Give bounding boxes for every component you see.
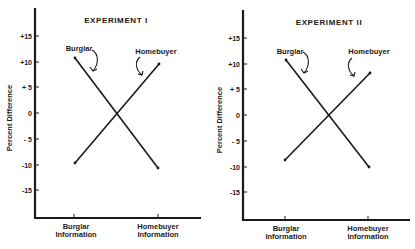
data-point (284, 159, 287, 162)
data-point (74, 57, 77, 60)
chart-experiment-2: EXPERIMENT II Percent Difference +15 +10… (215, 10, 410, 241)
series-line-burglar (286, 60, 369, 167)
y-tick-label: -10 (230, 164, 240, 171)
y-tick-label: +10 (228, 61, 240, 68)
data-point (285, 59, 288, 62)
data-point (368, 166, 371, 169)
chart-title: EXPERIMENT I (84, 16, 148, 25)
curved-arrow-icon (136, 57, 142, 75)
data-point (157, 167, 160, 170)
data-point (369, 72, 372, 75)
data-point (158, 63, 161, 66)
y-tick-label: +10 (20, 59, 32, 66)
y-tick-label: - 5 (24, 136, 32, 143)
chart-experiment-1: EXPERIMENT I Percent Difference +15 +10 … (5, 8, 201, 239)
y-ticks: +15 +10 + 5 0 - 5 -10 -15 (228, 35, 247, 196)
y-tick-label: 0 (28, 110, 32, 117)
chart-title: EXPERIMENT II (296, 18, 362, 27)
y-tick-label: - 5 (232, 138, 240, 145)
series-annotation-burglar: Burglar (277, 47, 304, 56)
y-tick-label: -10 (22, 162, 32, 169)
y-axis-label: Percent Difference (5, 85, 14, 151)
figure: EXPERIMENT I Percent Difference +15 +10 … (0, 0, 415, 249)
y-ticks: +15 +10 + 5 0 - 5 -10 -15 (20, 33, 39, 194)
y-tick-label: + 5 (22, 84, 32, 91)
y-tick-label: +15 (20, 33, 32, 40)
series-line-homebuyer (75, 64, 159, 163)
y-tick-label: +15 (228, 35, 240, 42)
curved-arrow-icon (92, 50, 97, 71)
curved-arrow-icon (303, 52, 308, 73)
x-category-label: Information (265, 232, 307, 241)
y-tick-label: 0 (236, 112, 240, 119)
x-category-label: Information (137, 230, 179, 239)
series-annotation-homebuyer: Homebuyer (135, 47, 176, 56)
y-tick-label: -15 (22, 187, 32, 194)
y-tick-label: -15 (230, 189, 240, 196)
x-category-label: Information (347, 232, 389, 241)
series-annotation-homebuyer: Homebuyer (348, 47, 389, 56)
x-category-label: Information (55, 230, 97, 239)
series-annotation-burglar: Burglar (66, 44, 93, 53)
data-point (74, 162, 77, 165)
y-axis-label: Percent Difference (215, 87, 224, 153)
curved-arrow-icon (348, 58, 354, 76)
y-tick-label: + 5 (230, 86, 240, 93)
series-line-homebuyer (285, 73, 370, 160)
